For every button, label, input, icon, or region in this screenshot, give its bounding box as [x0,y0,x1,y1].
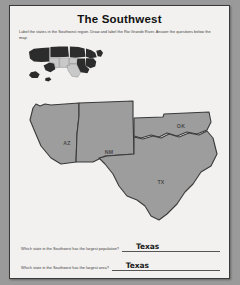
state-shape-oklahoma [134,112,211,138]
question-prompt: Which state in the Southwest has the lar… [21,265,109,271]
state-label-tx: TX [157,179,164,185]
question-row: Which state in the Southwest has the lar… [21,261,220,271]
answer-line[interactable]: Texas [122,242,220,252]
questions-section: Which state in the Southwest has the lar… [21,242,220,280]
answer-text: Texas [126,261,149,270]
answer-line[interactable]: Texas [112,261,220,271]
question-row: Which state in the Southwest has the lar… [21,242,220,252]
question-prompt: Which state in the Southwest has the lar… [21,246,119,252]
state-label-nm: NM [105,149,114,155]
answer-text: Texas [136,242,159,251]
page-content: The Southwest Label the states in the So… [15,10,224,274]
instructions-text: Label the states in the Southwest region… [15,29,224,42]
worksheet-page: The Southwest Label the states in the So… [9,5,230,279]
state-label-ok: OK [177,123,185,129]
southwest-region-map: AZ NM OK TX [21,88,221,228]
page-title: The Southwest [15,13,224,25]
state-shape-arizona [30,103,79,164]
state-label-az: AZ [63,140,71,146]
united-states-locator-map [27,42,105,84]
